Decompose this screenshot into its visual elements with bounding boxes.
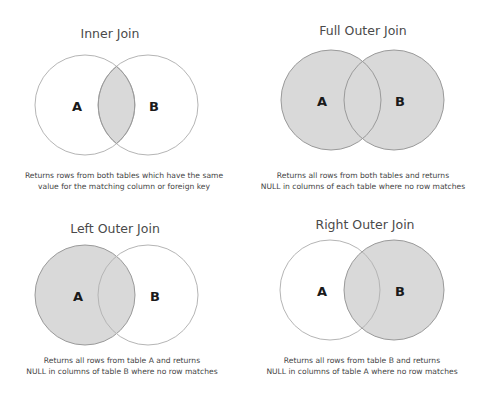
panel-full-outer-join: Full Outer Join A B Returns all rows fro… — [261, 23, 465, 191]
description-line-2: value for the matching column or foreign… — [38, 182, 211, 191]
panel-right-outer-join: Right Outer Join A B Returns all rows fr… — [266, 217, 457, 376]
description-line-1: Returns all rows from table A and return… — [44, 356, 200, 365]
circle-b-fill — [344, 50, 444, 150]
venn-diagram — [35, 245, 198, 345]
panel-title: Full Outer Join — [319, 23, 407, 38]
circle-b-fill — [344, 240, 444, 340]
circle-a-fill — [35, 245, 135, 345]
label-a: A — [317, 94, 327, 109]
venn-diagram — [281, 50, 444, 150]
panel-inner-join: Inner Join A B Returns rows from both ta… — [25, 26, 224, 191]
panel-title: Right Outer Join — [315, 217, 414, 232]
panel-title: Inner Join — [80, 26, 139, 41]
label-a: A — [317, 284, 327, 299]
label-a: A — [72, 99, 82, 114]
label-b: B — [149, 99, 159, 114]
venn-diagram — [280, 240, 444, 340]
venn-diagram — [35, 55, 198, 155]
label-b: B — [150, 289, 160, 304]
label-b: B — [395, 284, 405, 299]
label-b: B — [395, 94, 405, 109]
description-line-1: Returns all rows from table B and return… — [284, 356, 440, 365]
description-line-1: Returns rows from both tables which have… — [25, 171, 224, 180]
description-line-1: Returns all rows from both tables and re… — [277, 171, 449, 180]
description-line-2: NULL in columns of table B where no row … — [26, 367, 217, 376]
description-line-2: NULL in columns of each table where no r… — [261, 182, 465, 191]
panel-title: Left Outer Join — [70, 221, 160, 236]
description-line-2: NULL in columns of table A where no row … — [266, 367, 457, 376]
label-a: A — [73, 289, 83, 304]
panel-left-outer-join: Left Outer Join A B Returns all rows fro… — [26, 221, 217, 376]
sql-joins-diagram: Inner Join A B Returns rows from both ta… — [0, 0, 481, 395]
